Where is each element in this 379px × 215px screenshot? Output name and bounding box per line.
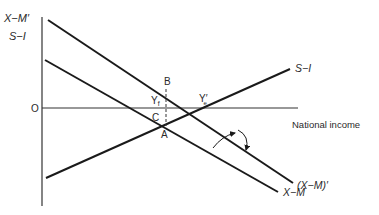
y-axis-label-xm: X−M′ [3,12,30,24]
xm-prime-line [48,20,293,183]
point-a-label: A [161,129,168,140]
origin-label: O [31,103,39,114]
point-ye-label: Y′e [199,93,208,106]
shift-arrow-icon [213,133,235,148]
point-b-label: B [164,76,171,87]
income-determination-diagram: X−M′ S−I O National income S−I (X−M)′ X−… [0,0,379,215]
x-axis-label: National income [292,119,360,130]
si-line-label: S−I [295,62,311,74]
xm-line-label: X−M [282,186,305,198]
point-c-label: C [152,112,159,123]
point-yf-label: Yf [151,95,160,107]
y-axis-label-si: S−I [9,30,26,42]
